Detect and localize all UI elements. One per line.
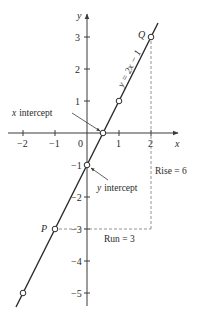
x-tick-label: 2 — [148, 138, 153, 149]
y-tick-label: 3 — [75, 32, 80, 43]
y-tick-label: −5 — [71, 288, 82, 299]
x-tick-label: 0 — [78, 138, 83, 149]
point-1-1-marker — [116, 98, 122, 104]
axes: x y — [8, 10, 180, 306]
y-tick-label: −1 — [71, 160, 82, 171]
y-tick-label: 1 — [75, 96, 80, 107]
x-intercept-pointer — [72, 113, 100, 131]
y-intercept-word: intercept — [104, 183, 138, 193]
point-neg2-neg5-marker — [20, 290, 26, 296]
rise-label: Rise = 6 — [155, 166, 187, 176]
x-intercept-label: xintercept — [11, 108, 53, 118]
line-graph-figure: x y −2 −1 0 1 2 3 2 1 −1 −2 −3 −4 −5 Ris… — [0, 0, 198, 319]
x-intercept-var: x — [11, 108, 17, 118]
y-tick-label: 2 — [75, 64, 80, 75]
x-axis-label: x — [174, 138, 180, 149]
point-q-label: Q — [138, 29, 146, 40]
y-intercept-label: yintercept — [96, 183, 138, 193]
point-q-marker — [148, 34, 154, 40]
x-intercept-marker — [100, 130, 106, 136]
equation-label: y = 2x − 1 — [115, 48, 142, 89]
x-tick-label: −1 — [49, 138, 60, 149]
point-p-label: P — [40, 223, 47, 234]
point-p-marker — [52, 226, 58, 232]
y-tick-label: −4 — [71, 256, 82, 267]
x-tick-label: −2 — [17, 138, 28, 149]
y-intercept-pointer — [91, 168, 108, 180]
y-intercept-var: y — [96, 183, 102, 193]
x-intercept-word: intercept — [19, 108, 53, 118]
run-label: Run = 3 — [104, 234, 135, 244]
y-tick-label: −3 — [71, 224, 82, 235]
y-intercept-marker — [84, 162, 90, 168]
x-tick-label: 1 — [116, 138, 121, 149]
y-axis-label: y — [76, 10, 82, 21]
